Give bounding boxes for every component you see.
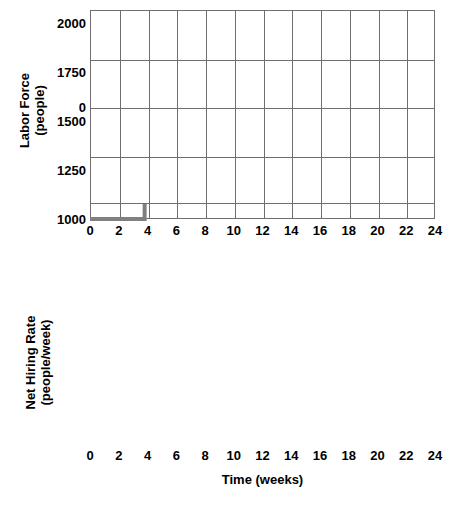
gridline-vertical (379, 11, 380, 203)
xtick-label: 0 (86, 449, 93, 462)
xtick-label: 14 (284, 449, 298, 462)
gridline-horizontal (91, 157, 434, 158)
xtick-label: 24 (428, 449, 442, 462)
yaxis-title-hiring-rate: Net Hiring Rate (people/week) (24, 298, 53, 428)
ytick-label: 0 (79, 101, 86, 114)
xtick-label: 10 (227, 449, 241, 462)
xtick-label: 22 (399, 449, 413, 462)
xtick-labels-hiring-rate: 0 2 4 6 8 10 12 14 16 18 20 22 24 (0, 449, 468, 467)
gridline-vertical (407, 11, 408, 203)
xtick-label: 6 (173, 449, 180, 462)
figure: Desired Labor Force 1000 1250 1500 1750 … (0, 0, 468, 509)
yaxis-title-line1: Net Hiring Rate (24, 298, 39, 428)
gridline-vertical (292, 11, 293, 203)
xaxis-title-time: Time (weeks) (90, 472, 435, 487)
xtick-label: 16 (313, 449, 327, 462)
xtick-label: 18 (342, 449, 356, 462)
gridline-vertical (321, 11, 322, 203)
gridline-vertical (177, 11, 178, 203)
ytick-labels-hiring-rate: 0 (0, 0, 86, 269)
xtick-label: 20 (370, 449, 384, 462)
xtick-label: 2 (115, 449, 122, 462)
gridline-vertical (120, 11, 121, 203)
gridline-vertical (235, 11, 236, 203)
gridline-vertical (350, 11, 351, 203)
chart-hiring-rate: 0 0 2 4 6 8 10 12 14 16 18 20 22 24 Net … (0, 0, 468, 269)
gridline-horizontal (91, 60, 434, 61)
plot-area-hiring-rate (90, 10, 435, 204)
gridline-horizontal (91, 108, 434, 109)
gridline-vertical (206, 11, 207, 203)
gridline-vertical (264, 11, 265, 203)
gridline-vertical (149, 11, 150, 203)
yaxis-title-line2: (people/week) (39, 298, 54, 428)
xtick-label: 4 (144, 449, 151, 462)
xtick-label: 12 (255, 449, 269, 462)
xtick-label: 8 (201, 449, 208, 462)
